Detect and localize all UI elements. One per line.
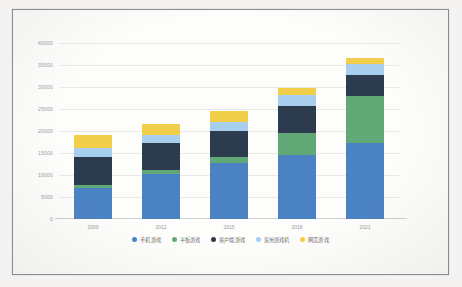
legend-label: 客户端游戏 <box>219 236 245 243</box>
bar-segment-series-1[interactable] <box>346 143 384 219</box>
scanned-page-frame: 0500010000150002000025000300003500040000… <box>12 9 449 275</box>
legend-item-series-5[interactable]: 网页游戏 <box>300 236 328 243</box>
y-axis-tick-label: 25000 <box>38 106 53 112</box>
legend-label: 网页游戏 <box>308 236 328 243</box>
bar-segment-series-4[interactable] <box>210 122 248 131</box>
bar-segment-series-2[interactable] <box>346 96 384 143</box>
legend-swatch-icon <box>132 237 137 242</box>
bar-segment-series-3[interactable] <box>278 106 316 133</box>
bar-stack[interactable]: 2015 <box>210 111 248 219</box>
legend-item-series-4[interactable]: 家用游戏机 <box>256 236 290 243</box>
bar-segment-series-3[interactable] <box>210 131 248 157</box>
legend-item-series-1[interactable]: 手机游戏 <box>132 236 160 243</box>
chart-legend: 手机游戏平板游戏客户端游戏家用游戏机网页游戏 <box>13 236 448 243</box>
bar-segment-series-3[interactable] <box>142 143 180 169</box>
y-axis-tick-label: 40000 <box>38 40 53 46</box>
x-axis-tick-label: 2012 <box>155 224 166 230</box>
y-axis-tick-label: 10000 <box>38 172 53 178</box>
bar-segment-series-5[interactable] <box>142 124 180 135</box>
legend-swatch-icon <box>211 237 216 242</box>
y-axis-tick-label: 35000 <box>38 62 53 68</box>
y-axis-tick-label: 5000 <box>41 194 53 200</box>
x-axis-tick-label: 2015 <box>223 224 234 230</box>
y-axis-tick-label: 15000 <box>38 150 53 156</box>
y-axis-tick-label: 30000 <box>38 84 53 90</box>
bar-stack[interactable]: 2012 <box>142 124 180 219</box>
y-axis-tick-label: 0 <box>50 216 53 222</box>
bar-segment-series-2[interactable] <box>278 133 316 155</box>
legend-item-series-2[interactable]: 平板游戏 <box>172 236 200 243</box>
bar-segment-series-4[interactable] <box>346 64 384 75</box>
legend-item-series-3[interactable]: 客户端游戏 <box>211 236 245 243</box>
bar-segment-series-4[interactable] <box>142 135 180 143</box>
legend-label: 手机游戏 <box>140 236 160 243</box>
y-axis-tick-label: 20000 <box>38 128 53 134</box>
legend-swatch-icon <box>256 237 261 242</box>
bar-segment-series-1[interactable] <box>142 174 180 219</box>
legend-swatch-icon <box>300 237 305 242</box>
bar-segment-series-3[interactable] <box>74 157 112 184</box>
bar-stack[interactable]: 2009 <box>74 135 112 219</box>
bar-segment-series-5[interactable] <box>278 88 316 95</box>
bar-segment-series-3[interactable] <box>346 75 384 96</box>
legend-label: 家用游戏机 <box>264 236 290 243</box>
bar-segment-series-4[interactable] <box>278 95 316 106</box>
legend-swatch-icon <box>172 237 177 242</box>
bar-stack[interactable]: 2018 <box>278 88 316 219</box>
plot-area: 0500010000150002000025000300003500040000… <box>59 43 399 219</box>
x-axis-tick-label: 2009 <box>87 224 98 230</box>
x-axis-tick-label: 2018 <box>291 224 302 230</box>
legend-label: 平板游戏 <box>180 236 200 243</box>
gridline <box>59 43 399 44</box>
bar-segment-series-5[interactable] <box>74 135 112 148</box>
bar-segment-series-5[interactable] <box>210 111 248 122</box>
x-axis-tick-label: 2021 <box>359 224 370 230</box>
bar-segment-series-1[interactable] <box>210 163 248 219</box>
stacked-bar-chart: 0500010000150002000025000300003500040000… <box>13 10 448 274</box>
bar-stack[interactable]: 2021 <box>346 58 384 219</box>
bar-segment-series-1[interactable] <box>278 155 316 219</box>
bar-segment-series-4[interactable] <box>74 148 112 158</box>
bar-segment-series-1[interactable] <box>74 188 112 219</box>
